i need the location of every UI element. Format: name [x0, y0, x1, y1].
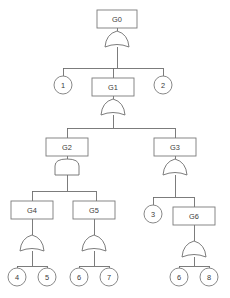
node-e4-label: 4 [15, 273, 19, 282]
node-g5-label: G5 [89, 206, 99, 215]
node-e9-label: 8 [207, 273, 211, 282]
node-e2[interactable]: 2 [154, 76, 172, 94]
or-gate-g0[interactable] [105, 31, 129, 47]
node-e1-label: 1 [61, 81, 65, 90]
node-e7-label: 7 [107, 273, 111, 282]
node-e3[interactable]: 3 [144, 205, 162, 223]
node-e6-label: 6 [77, 273, 81, 282]
node-g1[interactable]: G1 [92, 78, 134, 96]
node-g2[interactable]: G2 [46, 138, 88, 156]
or-gate-g3[interactable] [163, 159, 187, 175]
or-gate-g6[interactable] [182, 241, 206, 257]
node-g6[interactable]: G6 [173, 207, 215, 225]
node-g0-label: G0 [112, 15, 122, 24]
node-e5-label: 5 [45, 273, 49, 282]
fault-tree-diagram: G0 G1 G2 G3 G4 G5 [0, 0, 230, 298]
node-e7[interactable]: 7 [100, 268, 118, 286]
fault-tree-canvas: G0 G1 G2 G3 G4 G5 [0, 0, 230, 298]
and-gate-g2[interactable] [55, 159, 79, 175]
node-g5[interactable]: G5 [73, 201, 115, 219]
node-g4[interactable]: G4 [11, 201, 53, 219]
node-g6-label: G6 [189, 212, 199, 221]
node-e6[interactable]: 6 [70, 268, 88, 286]
node-e3-label: 3 [151, 210, 155, 219]
node-g0[interactable]: G0 [97, 10, 137, 28]
node-g1-label: G1 [108, 83, 118, 92]
or-gate-g1[interactable] [101, 99, 125, 115]
node-g4-label: G4 [27, 206, 37, 215]
node-e8[interactable]: 6 [170, 268, 188, 286]
node-e8-label: 6 [177, 273, 181, 282]
node-e1[interactable]: 1 [54, 76, 72, 94]
node-g2-label: G2 [62, 143, 72, 152]
or-gate-g5[interactable] [82, 235, 106, 251]
node-e2-label: 2 [161, 81, 165, 90]
node-g3-label: G3 [170, 143, 180, 152]
node-e4[interactable]: 4 [8, 268, 26, 286]
or-gate-g4[interactable] [20, 235, 44, 251]
node-g3[interactable]: G3 [154, 138, 196, 156]
node-e5[interactable]: 5 [38, 268, 56, 286]
node-e9[interactable]: 8 [200, 268, 218, 286]
